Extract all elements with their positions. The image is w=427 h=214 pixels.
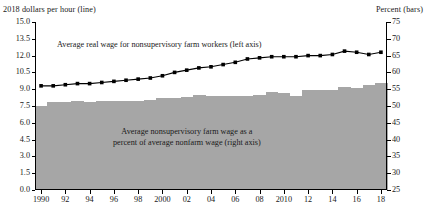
left-tick-1.5 — [32, 173, 36, 174]
left-tick-label-4.5: 4.5 — [20, 135, 30, 143]
x-tick-2002 — [187, 190, 188, 194]
line-marker-1996 — [112, 80, 116, 84]
line-marker-2007 — [246, 57, 250, 61]
line-marker-2018 — [379, 50, 383, 54]
left-tick-9.0 — [32, 89, 36, 90]
x-tick-label-2000: 2000 — [154, 196, 170, 204]
line-marker-1990 — [39, 84, 43, 88]
left-tick-label-15.0: 15.0 — [16, 18, 30, 26]
left-tick-label-10.5: 10.5 — [16, 68, 30, 76]
line-marker-2015 — [343, 49, 347, 53]
right-tick-55 — [387, 89, 391, 90]
left-tick-label-1.5: 1.5 — [20, 169, 30, 177]
left-axis-spine — [35, 22, 36, 190]
right-tick-label-35: 35 — [392, 152, 400, 160]
x-tick-label-2010: 2010 — [276, 196, 292, 204]
left-tick-label-3.0: 3.0 — [20, 152, 30, 160]
right-tick-65 — [387, 56, 391, 57]
bar-series-annotation-line-2: percent of average nonfarm wage (right a… — [113, 138, 261, 149]
right-tick-label-60: 60 — [392, 68, 400, 76]
right-tick-label-25: 25 — [392, 186, 400, 194]
x-tick-1994 — [90, 190, 91, 194]
line-marker-1991 — [51, 84, 55, 88]
right-tick-70 — [387, 39, 391, 40]
right-tick-label-70: 70 — [392, 35, 400, 43]
x-tick-label-2008: 08 — [255, 196, 263, 204]
x-tick-2000 — [162, 190, 163, 194]
right-tick-35 — [387, 156, 391, 157]
line-marker-2011 — [294, 55, 298, 59]
left-tick-label-12.0: 12.0 — [16, 51, 30, 59]
line-marker-2002 — [185, 68, 189, 72]
line-marker-2006 — [233, 61, 237, 65]
x-tick-2006 — [235, 190, 236, 194]
bar-series-annotation: Average nonsupervisory farm wage as a pe… — [113, 127, 261, 148]
line-series-annotation: Average real wage for nonsupervisory far… — [57, 40, 261, 51]
line-marker-2004 — [209, 65, 213, 69]
line-marker-1994 — [88, 82, 92, 86]
right-tick-30 — [387, 173, 391, 174]
line-marker-2010 — [282, 55, 286, 59]
line-marker-2012 — [306, 54, 310, 58]
x-tick-1990 — [41, 190, 42, 194]
line-marker-2003 — [197, 66, 201, 70]
line-marker-1992 — [64, 83, 68, 87]
line-marker-1999 — [149, 76, 153, 80]
x-tick-2016 — [357, 190, 358, 194]
x-tick-label-2012: 12 — [304, 196, 312, 204]
left-tick-15.0 — [32, 22, 36, 23]
x-tick-2004 — [211, 190, 212, 194]
x-tick-2014 — [332, 190, 333, 194]
x-tick-2012 — [308, 190, 309, 194]
x-tick-1998 — [138, 190, 139, 194]
line-marker-2001 — [173, 71, 177, 75]
line-marker-1995 — [100, 81, 104, 85]
line-marker-2000 — [161, 74, 165, 78]
left-tick-label-13.5: 13.5 — [16, 35, 30, 43]
right-tick-45 — [387, 123, 391, 124]
line-marker-1993 — [76, 82, 80, 86]
right-tick-label-30: 30 — [392, 169, 400, 177]
line-marker-1998 — [136, 77, 140, 81]
x-tick-label-1996: 96 — [110, 196, 118, 204]
x-tick-2010 — [284, 190, 285, 194]
line-marker-2016 — [355, 50, 359, 54]
left-tick-label-6.0: 6.0 — [20, 119, 30, 127]
line-marker-2017 — [367, 53, 371, 57]
left-tick-label-9.0: 9.0 — [20, 85, 30, 93]
line-marker-2005 — [221, 63, 225, 67]
left-tick-10.5 — [32, 72, 36, 73]
x-tick-label-1998: 98 — [134, 196, 142, 204]
bar-series-annotation-line-1: Average nonsupervisory farm wage as a — [113, 127, 261, 138]
x-tick-label-2014: 14 — [328, 196, 336, 204]
line-marker-2013 — [318, 54, 322, 58]
x-tick-label-1992: 92 — [61, 196, 69, 204]
right-tick-label-75: 75 — [392, 18, 400, 26]
x-tick-label-2018: 18 — [377, 196, 385, 204]
right-tick-50 — [387, 106, 391, 107]
right-axis-title: Percent (bars) — [376, 5, 423, 14]
x-tick-label-1990: 1990 — [33, 196, 49, 204]
line-marker-2014 — [331, 53, 335, 57]
left-tick-13.5 — [32, 39, 36, 40]
x-tick-label-2016: 16 — [353, 196, 361, 204]
right-tick-25 — [387, 190, 391, 191]
x-tick-label-2002: 02 — [183, 196, 191, 204]
chart-container: 2018 dollars per hour (line) Percent (ba… — [0, 0, 427, 214]
x-tick-2018 — [381, 190, 382, 194]
left-axis-title: 2018 dollars per hour (line) — [3, 5, 96, 14]
x-tick-2008 — [260, 190, 261, 194]
line-marker-1997 — [124, 78, 128, 82]
right-tick-label-45: 45 — [392, 119, 400, 127]
x-tick-1992 — [65, 190, 66, 194]
right-tick-label-40: 40 — [392, 135, 400, 143]
line-marker-2009 — [270, 55, 274, 59]
left-tick-12.0 — [32, 56, 36, 57]
left-tick-4.5 — [32, 140, 36, 141]
left-tick-3.0 — [32, 156, 36, 157]
x-tick-1996 — [114, 190, 115, 194]
x-tick-label-2004: 04 — [207, 196, 215, 204]
left-tick-6.0 — [32, 123, 36, 124]
line-marker-2008 — [258, 56, 262, 60]
left-tick-label-0.0: 0.0 — [20, 186, 30, 194]
